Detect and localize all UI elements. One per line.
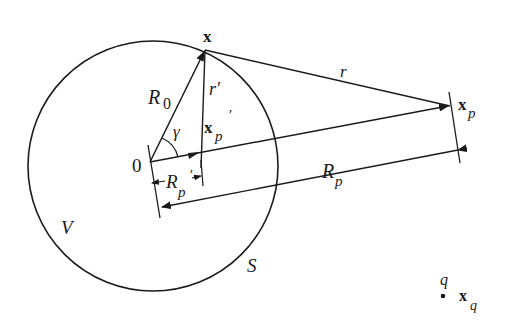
label-xp-prime-subscript: p xyxy=(214,128,223,144)
diagram-canvas: x r R 0 r′ x p ′ γ 0 R p ′ R p x p V S q… xyxy=(0,0,512,332)
label-surface-S: S xyxy=(247,255,257,276)
label-gamma: γ xyxy=(173,122,181,141)
label-R0-subscript: 0 xyxy=(163,95,171,112)
sphere-surface xyxy=(28,41,278,291)
label-xp-subscript: p xyxy=(467,105,476,121)
label-xq-subscript: q xyxy=(470,298,477,313)
label-xp-prime-mark: ′ xyxy=(229,107,232,123)
vector-r-prime xyxy=(201,50,205,168)
label-xq: x xyxy=(459,287,467,304)
label-Rp-prime: R xyxy=(165,171,178,192)
point-xq xyxy=(441,294,446,299)
label-R0: R xyxy=(147,86,160,108)
label-x: x xyxy=(203,27,212,46)
label-origin: 0 xyxy=(132,155,142,176)
label-Rp-prime-mark: ′ xyxy=(190,168,193,183)
label-Rp-subscript: p xyxy=(334,173,343,189)
arrowhead-xp-prime xyxy=(188,152,200,159)
dimension-Rp xyxy=(162,150,458,207)
dimension-Rp-prime-right xyxy=(192,176,201,178)
label-volume-V: V xyxy=(61,217,75,238)
label-q: q xyxy=(440,271,448,289)
label-r: r xyxy=(340,62,347,81)
label-r-prime: r′ xyxy=(209,79,221,99)
label-xp: x xyxy=(458,95,467,114)
label-Rp-prime-subscript: p xyxy=(177,184,186,200)
label-Rp: R xyxy=(321,160,334,182)
tick-xp-prime xyxy=(201,160,203,186)
label-xp-prime: x xyxy=(204,118,213,137)
